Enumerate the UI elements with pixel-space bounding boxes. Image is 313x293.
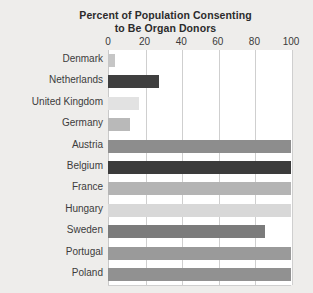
category-label-sweden: Sweden (0, 224, 103, 235)
chart-row: Hungary (0, 200, 313, 221)
chart-row: United Kingdom (0, 93, 313, 114)
category-label-germany: Germany (0, 117, 103, 128)
x-axis-tick-80: 80 (249, 36, 260, 47)
organ-donor-bar-chart: Percent of Population Consenting to Be O… (0, 0, 313, 293)
bar-hungary (108, 204, 291, 217)
x-axis-tick-100: 100 (283, 36, 300, 47)
plot-bottom-edge (108, 285, 291, 286)
bar-united-kingdom (108, 97, 139, 110)
x-axis-tick-labels: 020406080100 (0, 36, 313, 49)
category-label-austria: Austria (0, 139, 103, 150)
chart-title: Percent of Population Consenting to Be O… (28, 9, 303, 35)
bar-poland (108, 268, 291, 281)
bar-denmark (108, 54, 115, 67)
chart-row: Poland (0, 264, 313, 285)
chart-row: Portugal (0, 243, 313, 264)
chart-title-line-1: Percent of Population Consenting (28, 9, 303, 22)
chart-row: Germany (0, 114, 313, 135)
chart-title-line-2: to Be Organ Donors (28, 22, 303, 35)
x-axis-tick-20: 20 (139, 36, 150, 47)
bar-portugal (108, 247, 291, 260)
category-label-portugal: Portugal (0, 246, 103, 257)
chart-row: France (0, 178, 313, 199)
category-label-poland: Poland (0, 267, 103, 278)
bar-sweden (108, 225, 265, 238)
chart-row: Denmark (0, 50, 313, 71)
category-label-netherlands: Netherlands (0, 74, 103, 85)
chart-row: Austria (0, 136, 313, 157)
category-label-belgium: Belgium (0, 160, 103, 171)
bar-netherlands (108, 75, 159, 88)
category-label-denmark: Denmark (0, 53, 103, 64)
chart-rows: DenmarkNetherlandsUnited KingdomGermanyA… (0, 50, 313, 285)
chart-row: Belgium (0, 157, 313, 178)
bar-belgium (108, 161, 291, 174)
category-label-hungary: Hungary (0, 203, 103, 214)
bar-austria (108, 140, 291, 153)
bar-germany (108, 118, 130, 131)
bar-france (108, 182, 291, 195)
x-axis-tick-40: 40 (176, 36, 187, 47)
chart-row: Netherlands (0, 71, 313, 92)
category-label-france: France (0, 181, 103, 192)
x-axis-tick-0: 0 (105, 36, 111, 47)
category-label-united-kingdom: United Kingdom (0, 96, 103, 107)
chart-row: Sweden (0, 221, 313, 242)
x-axis-tick-60: 60 (212, 36, 223, 47)
